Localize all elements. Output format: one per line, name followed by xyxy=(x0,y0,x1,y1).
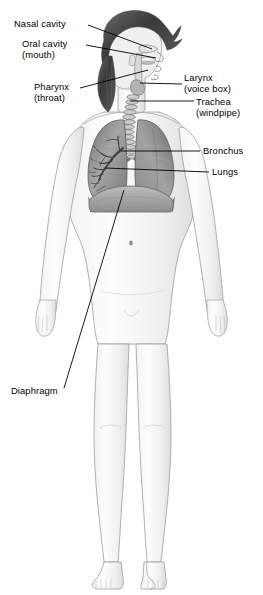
body-figure xyxy=(36,84,228,589)
label-trachea: Trachea xyxy=(196,97,231,108)
label-oral-cavity-sub: (mouth) xyxy=(22,50,55,61)
label-trachea-sub: (windpipe) xyxy=(196,108,240,119)
right-foot xyxy=(141,562,167,589)
label-oral-cavity: Oral cavity xyxy=(22,39,67,50)
label-lungs: Lungs xyxy=(212,167,238,178)
leader-larynx xyxy=(140,83,182,84)
label-pharynx: Pharynx xyxy=(34,82,69,93)
respiratory-system-diagram: Nasal cavity Oral cavity (mouth) Pharynx… xyxy=(0,0,263,595)
label-larynx: Larynx xyxy=(184,73,213,84)
right-leg xyxy=(136,344,171,562)
label-larynx-sub: (voice box) xyxy=(184,84,231,95)
label-nasal-cavity: Nasal cavity xyxy=(14,19,66,30)
label-bronchus: Bronchus xyxy=(203,146,243,157)
label-diaphragm: Diaphragm xyxy=(11,386,58,397)
navel xyxy=(129,241,133,246)
pharynx xyxy=(135,53,142,84)
left-leg xyxy=(94,344,129,562)
label-pharynx-sub: (throat) xyxy=(34,93,65,104)
left-foot xyxy=(92,562,123,589)
